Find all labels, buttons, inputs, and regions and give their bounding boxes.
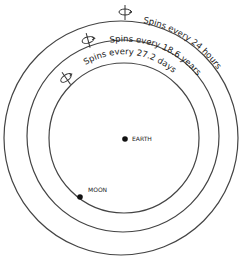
earth-label: EARTH: [132, 135, 152, 142]
orbit-diagram: Spins every 24 hours Spins every 18.6 ye…: [0, 0, 243, 262]
spin-arrow-icon: [119, 5, 132, 20]
spin-arrow-icon: [57, 68, 76, 88]
moon-label: MOON: [88, 186, 107, 193]
earth-dot: [122, 136, 128, 142]
moon-dot: [77, 194, 83, 200]
